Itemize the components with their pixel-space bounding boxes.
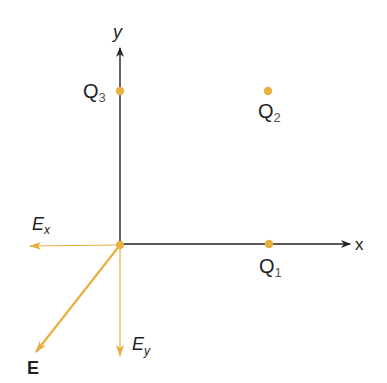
q3-label: Q3 [83,80,106,105]
y-axis-label: y [111,22,123,42]
x-axis-label: x [355,235,364,254]
ex-vector [30,245,120,246]
q2-name: Q [258,100,274,122]
origin-point [116,241,124,249]
e-vector [36,245,120,352]
q3-sub: 3 [99,90,106,105]
ex-label: Ex [32,214,51,237]
ey-sub: y [143,344,151,358]
charge-q3 [116,87,124,95]
q2-sub: 2 [274,110,281,125]
q3-name: Q [83,80,99,102]
ey-label: Ey [132,334,151,358]
ex-sub: x [43,223,51,237]
q1-name: Q [259,255,275,277]
q2-label: Q2 [258,100,281,125]
field-diagram: y x Q1 Q2 Q3 Ex Ey E [0,0,387,383]
q1-sub: 1 [275,265,282,280]
e-label: E [27,358,39,378]
charge-q2 [264,87,272,95]
q1-label: Q1 [259,255,282,280]
charge-q1 [265,240,273,248]
